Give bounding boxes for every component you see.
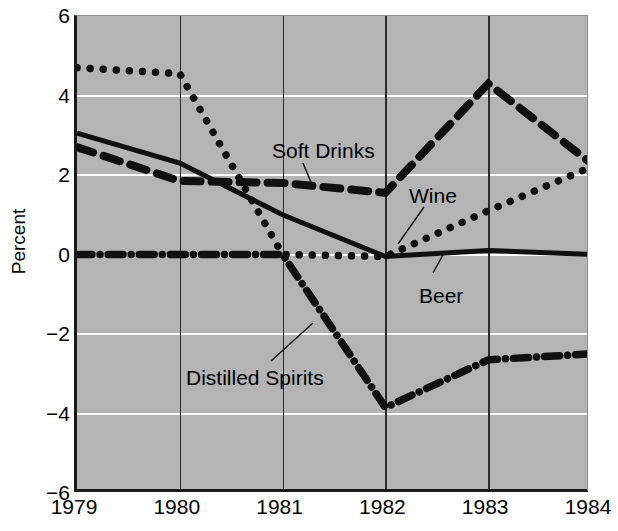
x-axis-tick-label: 1979 <box>31 496 117 518</box>
x-axis-tick-label: 1984 <box>545 496 618 518</box>
x-axis-tick-label: 1983 <box>442 496 528 518</box>
leader-lines <box>77 16 587 489</box>
y-axis-tick-label: 2 <box>0 164 70 185</box>
annotation-soft-drinks: Soft Drinks <box>272 140 375 161</box>
annotation-wine: Wine <box>409 185 457 206</box>
leader-line <box>433 253 444 273</box>
leader-line <box>303 163 313 187</box>
chart-root: Percent 6420−2−4−6 197919801981198219831… <box>0 0 618 531</box>
plot-area <box>74 15 588 492</box>
y-axis-tick-label: −4 <box>0 403 70 424</box>
y-axis-title: Percent <box>9 194 28 290</box>
annotation-distilled-spirits: Distilled Spirits <box>186 367 324 388</box>
y-axis-tick-label: 0 <box>0 244 70 265</box>
y-axis-tick-label: −2 <box>0 323 70 344</box>
x-axis-tick-label: 1981 <box>237 496 323 518</box>
leader-line <box>271 323 313 361</box>
y-axis-tick-label: 6 <box>0 5 70 26</box>
annotation-beer: Beer <box>419 285 463 306</box>
plot-surface <box>77 16 587 489</box>
x-axis-tick-label: 1982 <box>339 496 425 518</box>
x-axis-tick-label: 1980 <box>134 496 220 518</box>
y-axis-tick-label: 4 <box>0 85 70 106</box>
leader-line <box>398 207 424 244</box>
